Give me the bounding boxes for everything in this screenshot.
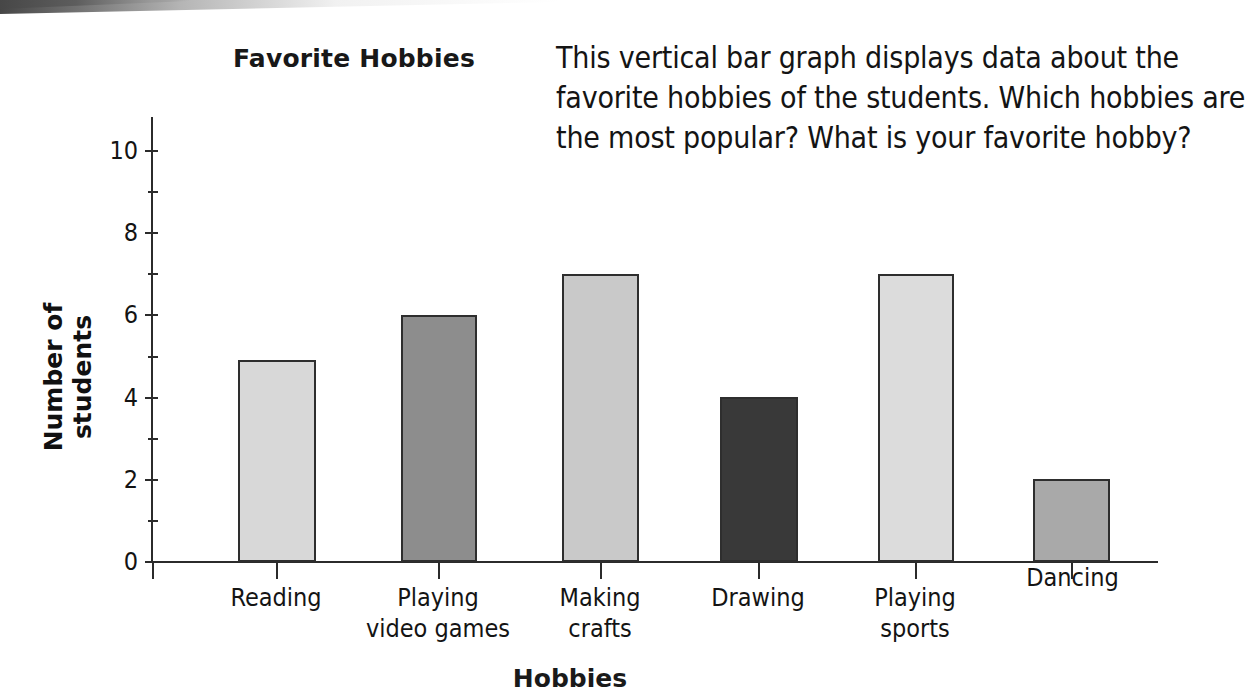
x-tick-reading xyxy=(276,562,278,579)
x-axis-title: Hobbies xyxy=(470,664,670,692)
y-minor-tick-7 xyxy=(148,273,158,275)
y-tick-label-2: 2 xyxy=(98,465,138,494)
bar-drawing xyxy=(720,397,798,562)
x-label-dancing: Dancing xyxy=(1000,562,1145,593)
y-tick-label-4: 4 xyxy=(98,383,138,412)
y-tick-2 xyxy=(145,479,158,481)
y-tick-4 xyxy=(145,397,158,399)
x-label-playing-video-games: Playing video games xyxy=(348,582,528,644)
y-tick-label-6: 6 xyxy=(98,300,138,329)
bar-playing-video-games xyxy=(401,315,477,562)
x-tick-making-crafts xyxy=(600,562,602,579)
bar-reading xyxy=(238,360,316,562)
y-minor-tick-3 xyxy=(148,438,158,440)
y-tick-label-0: 0 xyxy=(98,547,138,576)
x-label-drawing: Drawing xyxy=(688,582,828,613)
y-minor-tick-1 xyxy=(148,520,158,522)
scanned-worksheet-page: Favorite Hobbies This vertical bar graph… xyxy=(0,0,1256,692)
bar-playing-sports xyxy=(878,274,954,562)
y-minor-tick-9 xyxy=(148,191,158,193)
bar-making-crafts xyxy=(562,274,639,562)
bar-dancing xyxy=(1033,479,1110,562)
y-tick-label-8: 8 xyxy=(98,218,138,247)
x-tick-playing-video-games xyxy=(438,562,440,579)
x-tick-drawing xyxy=(758,562,760,579)
bar-chart-plot: Number of students 0 2 4 6 8 10 xyxy=(0,0,1256,692)
y-tick-8 xyxy=(145,232,158,234)
y-tick-label-10: 10 xyxy=(98,136,138,165)
y-tick-10 xyxy=(145,150,158,152)
y-axis-title: Number of students xyxy=(39,247,97,507)
y-axis-line xyxy=(151,117,153,563)
x-tick-playing-sports xyxy=(915,562,917,579)
x-label-playing-sports: Playing sports xyxy=(840,582,990,644)
y-tick-6 xyxy=(145,314,158,316)
x-tick-origin xyxy=(152,562,154,579)
x-label-reading: Reading xyxy=(196,582,356,613)
y-minor-tick-5 xyxy=(148,356,158,358)
x-label-making-crafts: Making crafts xyxy=(525,582,675,644)
